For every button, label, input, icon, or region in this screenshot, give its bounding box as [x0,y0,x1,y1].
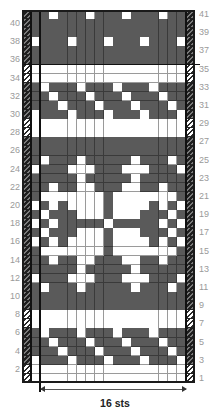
edge-stitch-cell [186,201,195,210]
edge-stitch-cell [186,256,195,265]
row-number-18: 18 [3,219,20,228]
row-number-3: 3 [199,356,214,365]
knitting-chart-grid [22,10,195,383]
row-number-27: 27 [199,137,214,146]
row-number-38: 38 [3,37,20,46]
edge-stitch-cell [186,146,195,155]
stitch-width-dimension-line [41,389,186,390]
row-number-34: 34 [3,74,20,83]
edge-stitch-cell [186,247,195,256]
edge-stitch-cell [186,28,195,37]
row-number-21: 21 [199,192,214,201]
edge-stitch-cell [186,92,195,101]
edge-stitch-cell [186,265,195,274]
edge-stitch-cell [186,101,195,110]
edge-stitch-cell [186,338,195,347]
edge-stitch-cell [186,210,195,219]
row-number-17: 17 [199,228,214,237]
section-divider-line [22,64,200,66]
row-number-36: 36 [3,55,20,64]
row-number-15: 15 [199,247,214,256]
edge-stitch-cell [186,237,195,246]
row-number-7: 7 [199,319,214,328]
arrow-left-icon [40,386,45,392]
edge-stitch-cell [186,292,195,301]
edge-stitch-cell [186,119,195,128]
row-number-20: 20 [3,201,20,210]
row-number-41: 41 [199,10,214,19]
row-number-39: 39 [199,28,214,37]
row-number-22: 22 [3,183,20,192]
edge-stitch-cell [186,65,195,74]
repeat-boundary-line [30,10,32,383]
arrow-right-icon [182,386,187,392]
row-number-31: 31 [199,101,214,110]
edge-stitch-cell [186,19,195,28]
edge-stitch-cell [186,128,195,137]
edge-stitch-cell [186,37,195,46]
row-number-13: 13 [199,265,214,274]
edge-stitch-cell [186,110,195,119]
row-number-5: 5 [199,338,214,347]
row-number-30: 30 [3,110,20,119]
row-number-6: 6 [3,328,20,337]
repeat-boundary-line [185,10,187,383]
row-number-28: 28 [3,128,20,137]
edge-stitch-cell [186,319,195,328]
row-number-2: 2 [3,365,20,374]
edge-stitch-cell [186,165,195,174]
edge-stitch-cell [186,156,195,165]
row-number-29: 29 [199,119,214,128]
edge-stitch-cell [186,347,195,356]
edge-stitch-cell [186,283,195,292]
edge-stitch-cell [186,219,195,228]
edge-stitch-cell [186,10,195,19]
edge-stitch-cell [186,310,195,319]
row-number-4: 4 [3,347,20,356]
edge-stitch-cell [186,192,195,201]
row-number-32: 32 [3,92,20,101]
row-number-23: 23 [199,174,214,183]
edge-stitch-cell [186,274,195,283]
edge-stitch-cell [186,356,195,365]
edge-stitch-cell [186,301,195,310]
row-number-19: 19 [199,210,214,219]
row-number-40: 40 [3,19,20,28]
repeat-boundary-line [39,10,41,392]
row-number-33: 33 [199,83,214,92]
row-number-11: 11 [199,283,214,292]
edge-stitch-cell [186,46,195,55]
row-number-37: 37 [199,46,214,55]
row-number-35: 35 [199,65,214,74]
edge-stitch-cell [186,374,195,383]
row-number-1: 1 [199,374,214,383]
row-number-10: 10 [3,292,20,301]
edge-stitch-cell [186,74,195,83]
row-number-8: 8 [3,310,20,319]
row-number-26: 26 [3,146,20,155]
row-number-12: 12 [3,274,20,283]
row-number-14: 14 [3,256,20,265]
edge-stitch-cell [186,83,195,92]
edge-stitch-cell [186,183,195,192]
edge-stitch-cell [186,365,195,374]
edge-stitch-cell [186,174,195,183]
edge-stitch-cell [186,328,195,337]
stitch-count-label: 16 sts [60,397,170,409]
row-number-16: 16 [3,237,20,246]
edge-stitch-cell [186,137,195,146]
row-number-24: 24 [3,165,20,174]
row-number-25: 25 [199,156,214,165]
edge-stitch-cell [186,228,195,237]
row-number-9: 9 [199,301,214,310]
